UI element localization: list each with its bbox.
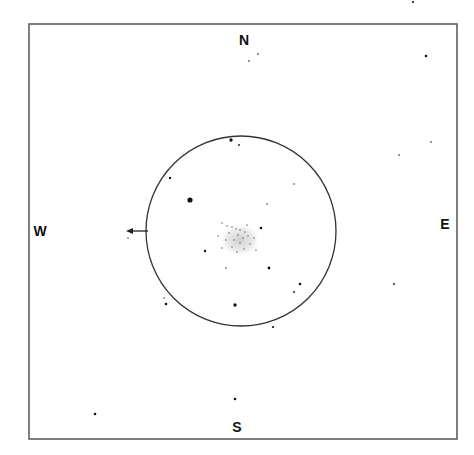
star bbox=[234, 398, 237, 401]
cluster-star bbox=[239, 242, 240, 243]
star-field bbox=[0, 0, 474, 455]
cluster-star bbox=[247, 235, 248, 236]
star-cluster-glow bbox=[218, 222, 262, 258]
star bbox=[299, 283, 302, 286]
star bbox=[412, 1, 414, 3]
cluster-star bbox=[233, 239, 234, 240]
cluster-star bbox=[225, 239, 226, 240]
cluster-star bbox=[231, 246, 232, 247]
star bbox=[187, 197, 192, 202]
cluster-star bbox=[231, 226, 232, 227]
star bbox=[272, 326, 274, 328]
star bbox=[163, 297, 164, 298]
finder-chart: N S W E bbox=[0, 0, 474, 455]
star bbox=[229, 138, 232, 141]
cluster-star bbox=[239, 229, 240, 230]
cluster-star bbox=[217, 235, 218, 236]
star bbox=[266, 203, 267, 204]
star bbox=[225, 267, 226, 268]
cluster-star bbox=[237, 234, 238, 235]
star bbox=[94, 413, 97, 416]
star bbox=[248, 60, 250, 62]
cluster-star bbox=[235, 228, 236, 229]
cluster-star bbox=[243, 248, 244, 249]
star bbox=[127, 237, 128, 238]
star bbox=[398, 154, 400, 156]
compass-south-label: S bbox=[232, 420, 241, 434]
star bbox=[293, 183, 294, 184]
cluster-star bbox=[253, 237, 254, 238]
compass-west-label: W bbox=[33, 224, 46, 238]
star bbox=[293, 291, 295, 293]
cluster-star bbox=[242, 237, 243, 238]
cluster-star bbox=[228, 232, 229, 233]
field-stars bbox=[94, 1, 432, 415]
star bbox=[393, 283, 395, 285]
cluster-star bbox=[255, 249, 256, 250]
cluster-star bbox=[226, 225, 227, 226]
star bbox=[425, 55, 428, 58]
star bbox=[238, 144, 240, 146]
star bbox=[169, 177, 171, 179]
cluster-star bbox=[236, 251, 237, 252]
star bbox=[165, 303, 168, 306]
star bbox=[430, 141, 432, 143]
star bbox=[257, 53, 259, 55]
compass-north-label: N bbox=[239, 33, 249, 47]
star bbox=[260, 227, 263, 230]
cluster-star bbox=[221, 222, 222, 223]
cluster-star bbox=[221, 247, 222, 248]
star bbox=[268, 267, 271, 270]
cluster-star bbox=[249, 243, 250, 244]
star bbox=[233, 303, 236, 306]
cluster-star bbox=[246, 224, 247, 225]
west-arrow-icon bbox=[126, 228, 148, 234]
compass-east-label: E bbox=[440, 217, 449, 231]
cluster-star bbox=[244, 231, 245, 232]
star bbox=[204, 250, 206, 252]
